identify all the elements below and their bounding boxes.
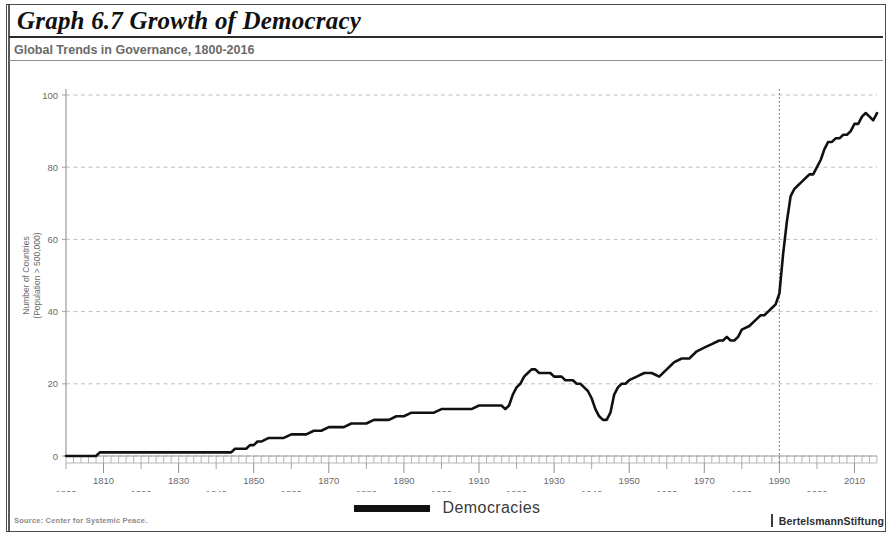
- xtick-label-1860: 1860: [281, 488, 302, 492]
- ytick-label-80: 80: [47, 162, 58, 173]
- xtick-label-1960: 1960: [656, 488, 677, 492]
- xtick-label-1830: 1830: [168, 475, 189, 486]
- xtick-label-1910: 1910: [468, 475, 489, 486]
- xtick-label-1880: 1880: [356, 488, 377, 492]
- brand-name: BertelsmannStiftung: [779, 515, 884, 527]
- xtick-label-1870: 1870: [318, 475, 339, 486]
- figure-page: Graph 6.7 Growth of Democracy Global Tre…: [0, 0, 894, 537]
- figure-subtitle-bar: Global Trends in Governance, 1800-2016: [9, 39, 883, 61]
- xtick-label-1980: 1980: [731, 488, 752, 492]
- xtick-label-1920: 1920: [506, 488, 527, 492]
- brand-block: BertelsmannStiftung: [771, 514, 884, 527]
- xtick-label-1990: 1990: [769, 475, 790, 486]
- xtick-label-1840: 1840: [206, 488, 227, 492]
- xtick-label-1970: 1970: [694, 475, 715, 486]
- ytick-label-100: 100: [42, 90, 58, 101]
- xtick-label-1950: 1950: [619, 475, 640, 486]
- series-line-democracies: [66, 113, 877, 456]
- y-axis-label-line1: Number of Countries: [21, 236, 31, 314]
- xtick-label-1940: 1940: [581, 488, 602, 492]
- xtick-label-2010: 2010: [844, 475, 865, 486]
- legend-label-democracies: Democracies: [443, 499, 541, 517]
- xtick-label-1810: 1810: [93, 475, 114, 486]
- ytick-label-40: 40: [47, 306, 58, 317]
- xtick-label-2000: 2000: [806, 488, 827, 492]
- y-axis-label: Number of Countries(Population > 500,000…: [21, 232, 42, 318]
- xtick-label-1820: 1820: [131, 488, 152, 492]
- legend-swatch-democracies: [354, 505, 430, 512]
- chart-region: 020406080100Number of Countries(Populati…: [9, 62, 883, 492]
- y-axis-label-line2: (Population > 500,000): [32, 232, 42, 318]
- page-title: Graph 6.7 Growth of Democracy: [17, 7, 361, 35]
- ytick-label-0: 0: [53, 451, 58, 462]
- line-chart: 020406080100Number of Countries(Populati…: [9, 62, 883, 492]
- ytick-label-20: 20: [47, 378, 58, 389]
- xtick-label-1900: 1900: [431, 488, 452, 492]
- vertical-bar-icon: [771, 514, 773, 527]
- xtick-label-1890: 1890: [393, 475, 414, 486]
- figure-title-bar: Graph 6.7 Growth of Democracy: [9, 5, 883, 38]
- ytick-label-60: 60: [47, 234, 58, 245]
- xtick-label-1850: 1850: [243, 475, 264, 486]
- xtick-label-1930: 1930: [544, 475, 565, 486]
- source-note: Source: Center for Systemic Peace.: [14, 516, 148, 525]
- xtick-label-1800: 1800: [55, 488, 76, 492]
- figure-subtitle: Global Trends in Governance, 1800-2016: [14, 43, 254, 57]
